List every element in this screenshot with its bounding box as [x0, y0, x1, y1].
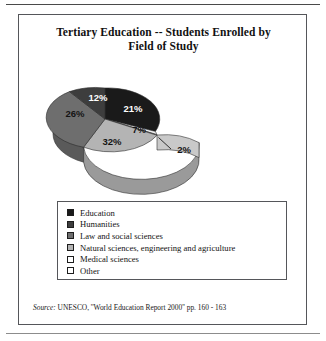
pie-chart: 21% 7% 2% 32% 26% 12%	[29, 57, 298, 197]
legend-swatch-icon	[67, 267, 74, 274]
legend-item-education: Education	[67, 207, 286, 219]
figure-page: Tertiary Education -- Students Enrolled …	[0, 0, 326, 341]
pie-value-label-humanities: 7%	[132, 124, 146, 135]
legend-item-natural-sciences: Natural sciences, engineering and agricu…	[67, 242, 286, 254]
pie-value-label-other: 12%	[88, 92, 108, 103]
pie-value-label-law-and-social-sciences: 2%	[177, 144, 191, 155]
legend-item-medical-sciences: Medical sciences	[67, 253, 286, 265]
legend-label: Other	[80, 266, 100, 276]
pie-value-label-medical-sciences: 26%	[65, 108, 85, 119]
legend-label: Humanities	[80, 219, 120, 229]
source-note-prefix: Source:	[33, 303, 56, 312]
legend-swatch-icon	[67, 221, 74, 228]
legend-label: Medical sciences	[80, 254, 139, 264]
legend-swatch-icon	[67, 209, 74, 216]
legend-label: Law and social sciences	[80, 231, 163, 241]
legend-swatch-icon	[67, 232, 74, 239]
chart-title-line-1: Tertiary Education -- Students Enrolled …	[33, 25, 294, 39]
source-note: Source: UNESCO, ''World Education Report…	[33, 303, 226, 312]
legend-item-humanities: Humanities	[67, 219, 286, 231]
legend-label: Education	[80, 208, 115, 218]
legend-swatch-icon	[67, 244, 74, 251]
chart-title-line-2: Field of Study	[33, 39, 294, 53]
legend-item-law-and-social-sciences: Law and social sciences	[67, 230, 286, 242]
pie-chart-svg: 21% 7% 2% 32% 26% 12%	[29, 57, 298, 197]
legend-item-other: Other	[67, 265, 286, 277]
chart-frame: Tertiary Education -- Students Enrolled …	[18, 14, 307, 325]
source-note-text: UNESCO, ''World Education Report 2000'' …	[58, 303, 227, 312]
legend-swatch-icon	[67, 256, 74, 263]
chart-legend: Education Humanities Law and social scie…	[57, 201, 287, 280]
pie-value-label-education: 21%	[123, 103, 143, 114]
bottom-divider-rule	[6, 333, 320, 334]
chart-title: Tertiary Education -- Students Enrolled …	[33, 25, 294, 53]
pie-value-label-natural-sciences: 32%	[102, 136, 122, 147]
legend-label: Natural sciences, engineering and agricu…	[80, 243, 235, 253]
top-divider-rule	[6, 4, 320, 5]
